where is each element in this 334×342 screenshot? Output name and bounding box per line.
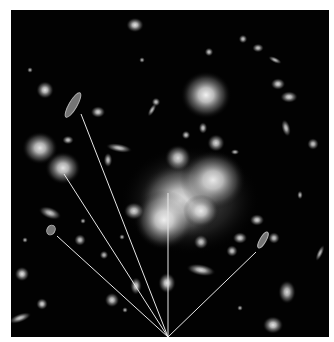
right-lensed-arc	[256, 231, 270, 250]
star-field	[11, 10, 329, 337]
galaxy	[271, 78, 286, 90]
galaxy	[185, 261, 217, 278]
galaxy	[205, 48, 214, 57]
galaxy	[36, 298, 48, 310]
galaxy	[158, 273, 176, 294]
galaxy	[100, 251, 109, 260]
galaxy	[22, 237, 28, 243]
galaxy	[239, 35, 248, 44]
galaxy	[105, 141, 133, 155]
galaxy	[307, 138, 319, 150]
image-frame	[0, 0, 334, 342]
galaxy	[45, 152, 81, 185]
galaxy	[37, 203, 64, 222]
galaxy	[313, 244, 326, 263]
galaxy	[297, 191, 303, 200]
galaxy	[199, 122, 208, 134]
galaxy	[237, 305, 243, 311]
galaxies-layer	[11, 18, 327, 335]
galaxy	[124, 202, 145, 220]
galaxy	[36, 81, 54, 99]
galaxy	[278, 280, 296, 304]
galaxy	[11, 310, 33, 327]
galaxy	[105, 293, 120, 308]
line-to-lower-left-arc	[57, 236, 168, 337]
galaxy	[80, 218, 86, 224]
galaxy	[126, 18, 144, 33]
galaxy	[280, 91, 298, 103]
galaxy	[226, 245, 238, 257]
galaxy	[139, 57, 145, 63]
upper-left-lensed-arc	[63, 91, 84, 119]
galaxy	[183, 195, 219, 228]
galaxy	[165, 145, 192, 172]
galaxy	[268, 232, 280, 244]
galaxy	[122, 307, 128, 313]
galaxy-cluster-image	[11, 10, 329, 337]
lower-left-lensed-arc	[45, 224, 57, 237]
galaxy	[119, 234, 125, 240]
galaxy	[27, 67, 33, 73]
galaxy	[15, 267, 30, 282]
line-to-right-arc	[168, 252, 256, 337]
galaxy	[134, 190, 194, 250]
galaxy	[104, 153, 113, 168]
galaxy	[91, 106, 106, 118]
galaxy	[267, 54, 283, 66]
galaxy	[182, 131, 191, 140]
galaxy	[181, 71, 232, 119]
galaxy	[250, 214, 265, 226]
galaxy	[74, 234, 86, 246]
galaxy	[207, 134, 225, 152]
galaxy	[252, 44, 264, 53]
galaxy	[233, 232, 248, 244]
galaxy	[231, 149, 240, 155]
galaxy	[194, 235, 209, 250]
galaxy	[263, 316, 284, 334]
galaxy	[279, 118, 292, 138]
galaxy	[62, 136, 74, 145]
